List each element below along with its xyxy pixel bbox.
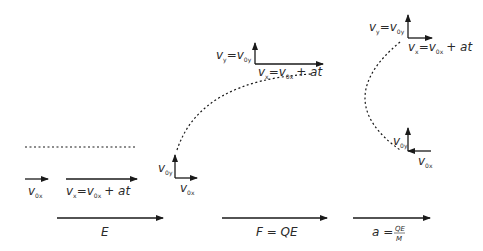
initial-velocity-label: v0x: [28, 184, 43, 199]
panel-2: v0y v0x vy=v0y vx=v0x+ at F = QE: [158, 43, 327, 239]
bottom-vy-label: v0y: [393, 134, 408, 150]
end-vy-label: vy=v0y: [216, 48, 252, 64]
acceleration-numerator: QE: [395, 225, 406, 233]
final-velocity-label: vx=v0x+ at: [66, 184, 131, 199]
start-vy-label: v0y: [158, 161, 173, 177]
start-vx-label: v0x: [180, 181, 195, 196]
panel-3: vy=v0y vx=v0x+ at v0y v0x a = QE M: [353, 15, 473, 243]
diagram-canvas: v0x vx=v0x+ at E v0y v0x vy=v0y vx=v0x+ …: [0, 0, 483, 251]
panel-1: v0x vx=v0x+ at E: [25, 147, 163, 239]
acceleration-denominator: M: [396, 235, 402, 243]
top-vy-label: vy=v0y: [369, 20, 405, 36]
top-vx-label: vx=v0x+ at: [408, 40, 473, 55]
bottom-vx-label: v0x: [418, 154, 433, 169]
end-vx-label: vx=v0x+ at: [258, 65, 323, 80]
trajectory-parabola-dashed: [177, 74, 312, 150]
force-label: F = QE: [256, 225, 298, 239]
acceleration-lhs: a =: [372, 225, 393, 239]
field-label: E: [101, 225, 109, 239]
